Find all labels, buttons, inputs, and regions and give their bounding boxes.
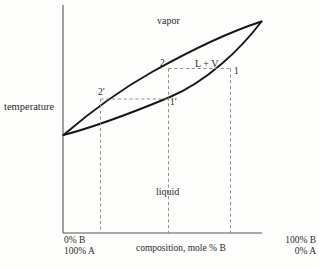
phase-diagram-figure: temperature composition, mole % B 0% B 1… xyxy=(0,0,319,269)
x-axis-right-endpoint-line1: 100% B xyxy=(285,235,316,246)
x-axis-left-endpoint-line1: 0% B xyxy=(64,235,95,246)
x-axis-right-endpoint-line2: 0% A xyxy=(285,246,316,257)
point-label-2-prime: 2′ xyxy=(98,87,105,97)
region-label-liquid-plus-vapor: L + V xyxy=(195,58,218,69)
vaporus-curve xyxy=(64,22,262,136)
point-label-2: 2 xyxy=(160,58,165,68)
x-axis-left-endpoint-label: 0% B 100% A xyxy=(64,235,95,256)
region-label-vapor: vapor xyxy=(157,15,180,26)
x-axis-right-endpoint-label: 100% B 0% A xyxy=(285,235,316,256)
point-label-1: 1 xyxy=(234,66,239,76)
region-label-liquid: liquid xyxy=(156,186,179,197)
x-axis-left-endpoint-line2: 100% A xyxy=(64,246,95,257)
x-axis-label: composition, mole % B xyxy=(136,243,226,254)
phase-diagram-canvas xyxy=(0,0,319,269)
point-label-1-prime: 1′ xyxy=(170,97,177,107)
liquidus-curve xyxy=(64,22,262,136)
y-axis-label: temperature xyxy=(4,101,54,113)
